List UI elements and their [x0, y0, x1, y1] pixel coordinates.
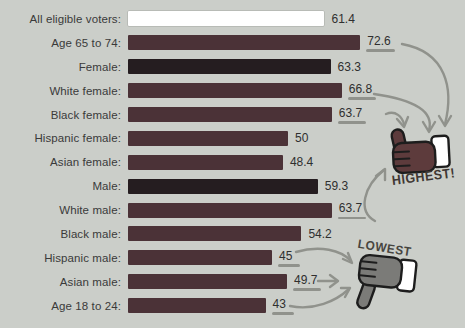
- row-bar: [128, 298, 266, 313]
- thumbs-down-icon: [343, 247, 430, 325]
- row-value: 43: [273, 297, 290, 315]
- row-value: 48.4: [290, 155, 313, 169]
- row-value-number: 66.8: [349, 82, 372, 96]
- row-bar: [128, 11, 324, 26]
- row-bar: [128, 83, 342, 98]
- row-bar: [128, 203, 332, 218]
- voter-turnout-chart: All eligible voters: 61.4 Age 65 to 74: …: [0, 0, 465, 328]
- row-label: All eligible voters:: [0, 13, 121, 25]
- row-value-number: 54.2: [308, 227, 331, 241]
- row-bar: [128, 59, 331, 74]
- chart-row: Black female: 63.7: [0, 103, 465, 127]
- chart-row: Female: 63.3: [0, 55, 465, 79]
- row-value-number: 48.4: [290, 155, 313, 169]
- row-label: Female:: [0, 61, 121, 73]
- row-value: 66.8: [349, 82, 372, 100]
- row-value: 49.7: [294, 273, 317, 291]
- value-underline: [348, 97, 376, 100]
- chart-row: Age 65 to 74: 72.6: [0, 31, 465, 55]
- row-label: Age 65 to 74:: [0, 37, 121, 49]
- row-bar: [128, 35, 360, 50]
- value-underline: [338, 217, 366, 220]
- row-bar: [128, 274, 287, 289]
- row-value-number: 63.7: [339, 106, 362, 120]
- chart-row: All eligible voters: 61.4: [0, 7, 465, 31]
- row-label: Male:: [0, 180, 121, 192]
- row-value-number: 59.3: [325, 179, 348, 193]
- row-label: Asian female:: [0, 156, 121, 168]
- value-underline: [272, 312, 294, 315]
- row-value-number: 45: [279, 249, 292, 263]
- row-value-number: 63.7: [339, 201, 362, 215]
- row-value: 50: [295, 131, 308, 145]
- chart-row: White male: 63.7: [0, 198, 465, 222]
- row-value: 63.3: [338, 60, 361, 74]
- row-value-number: 43: [273, 297, 286, 311]
- row-label: Hispanic female:: [0, 132, 121, 144]
- row-label: Black male:: [0, 228, 121, 240]
- chart-row: White female: 66.8: [0, 79, 465, 103]
- row-value: 72.6: [367, 34, 390, 52]
- row-value-number: 50: [295, 131, 308, 145]
- row-value: 63.7: [339, 201, 362, 219]
- row-value: 45: [279, 249, 296, 267]
- row-bar: [128, 250, 272, 265]
- row-label: Asian male:: [0, 276, 121, 288]
- row-value: 59.3: [325, 179, 348, 193]
- row-label: Age 18 to 24:: [0, 300, 121, 312]
- row-value: 54.2: [308, 227, 331, 241]
- row-label: White female:: [0, 85, 121, 97]
- row-value-number: 49.7: [294, 273, 317, 287]
- row-bar: [128, 226, 301, 241]
- row-bar: [128, 179, 318, 194]
- row-value-number: 72.6: [367, 34, 390, 48]
- value-underline: [338, 121, 366, 124]
- row-label: Black female:: [0, 109, 121, 121]
- value-underline: [366, 49, 394, 52]
- row-value: 63.7: [339, 106, 362, 124]
- row-bar: [128, 131, 288, 146]
- row-label: Hispanic male:: [0, 252, 121, 264]
- value-underline: [278, 264, 300, 267]
- row-label: White male:: [0, 204, 121, 216]
- row-bar: [128, 155, 283, 170]
- row-bar: [128, 107, 332, 122]
- value-underline: [293, 288, 321, 291]
- row-value-number: 63.3: [338, 60, 361, 74]
- row-value-number: 61.4: [331, 12, 354, 26]
- row-value: 61.4: [331, 12, 354, 26]
